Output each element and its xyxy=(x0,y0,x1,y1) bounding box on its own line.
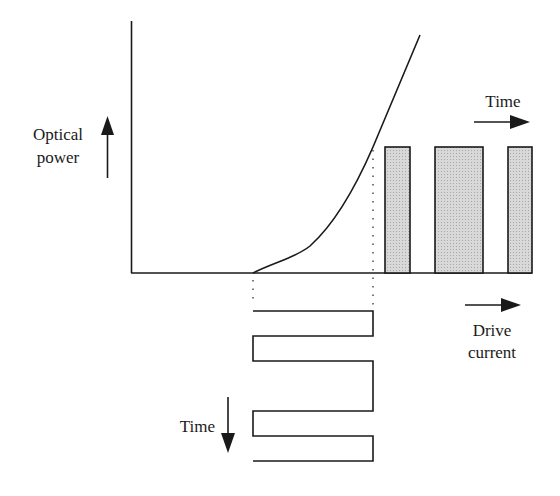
output-pulse xyxy=(435,147,483,273)
y-axis-label-line2: power xyxy=(37,148,80,167)
output-pulse xyxy=(508,147,532,273)
output-time-label: Time xyxy=(485,92,520,111)
x-axis-label-line2: current xyxy=(468,343,516,362)
output-pulses xyxy=(385,147,532,273)
input-current-waveform xyxy=(253,311,373,461)
up-arrowhead-icon xyxy=(101,116,114,135)
input-time-label: Time xyxy=(180,417,215,436)
output-pulse xyxy=(385,147,410,273)
x-axis-label-line1: Drive xyxy=(473,321,512,340)
laser-modulation-diagram: Optical power Time Drive current Time xyxy=(0,0,560,496)
right-arrowhead-icon xyxy=(510,115,530,129)
down-arrowhead-icon xyxy=(221,433,235,453)
right-arrowhead-icon xyxy=(501,298,521,312)
y-axis-label-line1: Optical xyxy=(33,125,83,144)
